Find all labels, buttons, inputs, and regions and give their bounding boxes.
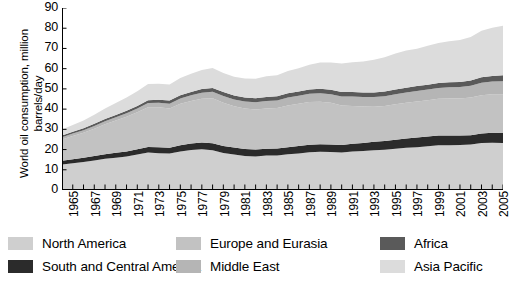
legend-swatch-icon	[380, 260, 405, 273]
legend-label: Africa	[414, 236, 448, 251]
legend-swatch-icon	[176, 260, 201, 273]
x-tick-label: 1987	[304, 191, 318, 217]
y-tick-label: 20	[32, 142, 58, 156]
legend-swatch-icon	[380, 237, 405, 250]
x-tick-label: 1997	[411, 191, 425, 217]
legend-item: South and Central America	[8, 257, 201, 276]
stacked-area-svg	[62, 8, 503, 190]
x-tick-label: 1989	[325, 191, 339, 217]
chart-legend: North AmericaSouth and Central AmericaEu…	[8, 234, 513, 280]
plot-area	[62, 8, 503, 190]
legend-label: North America	[42, 236, 126, 251]
x-tick-label: 1979	[218, 191, 232, 217]
x-tick-label: 1975	[175, 191, 189, 217]
legend-label: Middle East	[210, 259, 279, 274]
x-tick-label: 1991	[347, 191, 361, 217]
x-tick-label: 1967	[89, 191, 103, 217]
legend-item: Asia Pacific	[380, 257, 483, 276]
legend-label: Europe and Eurasia	[210, 236, 328, 251]
y-tick-label: 70	[32, 40, 58, 54]
legend-item: North America	[8, 234, 126, 253]
x-tick-label: 1969	[110, 191, 124, 217]
x-tick-label: 2003	[476, 191, 490, 217]
y-tick-label: 40	[32, 101, 58, 115]
y-tick-label: 30	[32, 121, 58, 135]
legend-item: Africa	[380, 234, 448, 253]
x-tick-label: 2001	[454, 191, 468, 217]
legend-swatch-icon	[8, 260, 33, 273]
x-tick-label: 1985	[282, 191, 296, 217]
x-tick-label: 1999	[433, 191, 447, 217]
chart-root: World oil consumption, million barrels/d…	[0, 0, 513, 282]
y-tick-label: 50	[32, 81, 58, 95]
legend-swatch-icon	[176, 237, 201, 250]
x-tick-label: 1971	[132, 191, 146, 217]
x-axis-tick-labels: 1965196719691971197319751977197919811983…	[62, 191, 503, 235]
x-tick-label: 1965	[67, 191, 81, 217]
y-tick-label: 90	[32, 0, 58, 14]
x-tick-label: 1977	[196, 191, 210, 217]
y-tick-label: 80	[32, 20, 58, 34]
x-tick-label: 1981	[239, 191, 253, 217]
y-tick-label: 10	[32, 162, 58, 176]
legend-swatch-icon	[8, 237, 33, 250]
legend-item: Europe and Eurasia	[176, 234, 328, 253]
x-tick-label: 1973	[153, 191, 167, 217]
legend-label: Asia Pacific	[414, 259, 483, 274]
x-tick-label: 1983	[261, 191, 275, 217]
legend-item: Middle East	[176, 257, 279, 276]
y-tick-label: 60	[32, 61, 58, 75]
y-tick-label: 0	[32, 182, 58, 196]
y-axis-tick-labels: 9080706050403020100	[30, 8, 58, 190]
x-tick-label: 1995	[390, 191, 404, 217]
x-tick-label: 1993	[368, 191, 382, 217]
x-tick-label: 2005	[497, 191, 511, 217]
